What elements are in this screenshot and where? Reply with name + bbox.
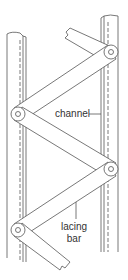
lacing-label: lacing — [61, 221, 87, 232]
bar-label: bar — [67, 233, 82, 244]
lacing-bar-diagram: channel lacing bar — [0, 0, 128, 280]
channel-label: channel — [55, 108, 90, 119]
diagram-canvas: channel lacing bar — [0, 0, 128, 280]
rivet-hole — [16, 112, 21, 117]
rivet-hole — [109, 167, 114, 172]
rivet-hole — [16, 228, 21, 233]
rivet-hole — [109, 50, 114, 55]
